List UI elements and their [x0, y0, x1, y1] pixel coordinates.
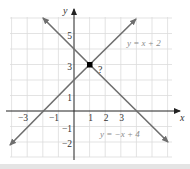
x-tick: 1 [88, 113, 93, 123]
y-axis-label: y [62, 5, 68, 16]
footer-bar [0, 164, 190, 169]
line1-equation-label: y = x + 2 [126, 38, 161, 48]
line-y-equals-neg-x-plus-4 [43, 18, 90, 65]
y-tick: 5 [67, 31, 72, 41]
coordinate-graph: y x −3 −1 1 2 3 5 3 1 −1 −2 ? y = x + 2 … [0, 0, 190, 164]
line2-equation-label: y = −x + 4 [99, 129, 140, 139]
y-tick: 3 [67, 62, 72, 72]
y-tick: −1 [62, 124, 72, 134]
x-axis-label: x [179, 112, 185, 123]
x-tick: −3 [18, 113, 28, 123]
intersection-point [87, 62, 93, 68]
y-tick: 1 [67, 93, 72, 103]
x-tick: −1 [49, 113, 59, 123]
x-tick: 2 [104, 113, 109, 123]
intersection-question-mark: ? [98, 64, 103, 75]
y-tick: −2 [62, 139, 72, 149]
x-tick: 3 [119, 113, 124, 123]
